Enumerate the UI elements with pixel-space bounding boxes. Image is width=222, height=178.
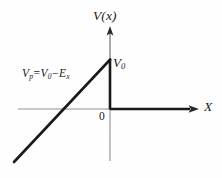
formula-minus-sign: − [51, 67, 59, 79]
formula-term1-subscript: 0 [48, 72, 52, 81]
diagram-canvas [0, 0, 222, 178]
potential-energy-diagram: V(x) X V0 0 Vp=V0−Ex [0, 0, 222, 178]
barrier-height-label: V0 [113, 56, 125, 69]
origin-label: 0 [99, 111, 105, 123]
x-axis-arrowhead-icon [189, 105, 200, 112]
formula-equals-sign: = [33, 67, 41, 79]
formula-term1-symbol: V [41, 67, 48, 79]
formula-term2-subscript: x [66, 72, 69, 81]
y-axis-label: V(x) [93, 9, 117, 23]
formula-lhs-subscript: p [29, 72, 33, 81]
x-axis-label: X [204, 100, 212, 114]
barrier-height-subscript: 0 [121, 61, 125, 71]
barrier-height-symbol: V [113, 55, 121, 70]
potential-formula-label: Vp=V0−Ex [22, 68, 70, 80]
